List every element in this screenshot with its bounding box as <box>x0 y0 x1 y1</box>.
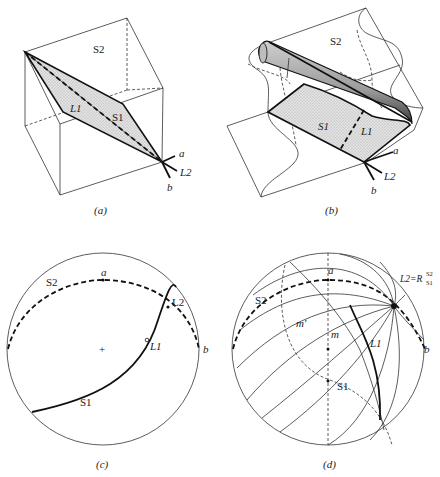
caption-d: (d) <box>323 458 336 471</box>
svg-text:S2: S2 <box>426 270 433 277</box>
label-l2: L2 <box>172 296 184 308</box>
hinge-end <box>259 43 267 63</box>
label-b: b <box>167 181 173 193</box>
label-b: b <box>203 343 209 355</box>
label-s2: S2 <box>330 35 342 47</box>
point-s1-intersection <box>327 380 330 383</box>
caption-c: (c) <box>96 458 109 471</box>
label-rotation-axis: L2=R S2 S1 <box>399 270 433 286</box>
label-a: a <box>179 147 185 159</box>
point-a <box>327 279 330 282</box>
label-s1: S1 <box>318 120 329 132</box>
label-l2: L2 <box>383 170 396 182</box>
label-a: a <box>393 144 399 156</box>
panel-d: a S2 m′ m L1 S1 b L2=R S2 S1 (d) <box>232 253 433 471</box>
panel-c: + a S2 L2 L1 b S1 (c) <box>7 253 209 471</box>
label-s1: S1 <box>337 380 349 392</box>
label-s1: S1 <box>112 111 124 123</box>
label-b: b <box>371 184 377 196</box>
svg-text:S1: S1 <box>426 279 433 286</box>
label-s2: S2 <box>255 294 267 306</box>
label-a: a <box>328 264 334 276</box>
label-l2: L2 <box>179 166 192 178</box>
panel-a: S2 L1 S1 a L2 b (a) <box>25 18 192 217</box>
center-mark: + <box>99 343 105 355</box>
point-a <box>101 278 104 281</box>
label-l1: L1 <box>149 340 162 352</box>
point-l2-rotation-axis <box>391 303 397 309</box>
point-l2 <box>166 305 169 308</box>
label-l1: L1 <box>360 125 373 137</box>
label-s2: S2 <box>93 43 105 55</box>
label-b: b <box>424 343 430 355</box>
label-m-prime: m′ <box>296 317 307 329</box>
point-m <box>327 348 330 351</box>
axis-a-line <box>162 156 175 162</box>
label-s2: S2 <box>46 276 58 288</box>
great-circle-s2 <box>8 280 199 349</box>
label-l1: L1 <box>69 102 82 114</box>
caption-a: (a) <box>94 204 107 217</box>
panel-b: S2 S1 L1 a L2 b (b) <box>227 8 423 217</box>
label-a: a <box>101 266 107 278</box>
label-l1: L1 <box>369 337 382 349</box>
figure-canvas: S2 L1 S1 a L2 b (a) <box>0 0 440 477</box>
label-s1: S1 <box>80 396 92 408</box>
label-m: m <box>331 328 339 340</box>
point-l1 <box>145 338 149 342</box>
caption-b: (b) <box>325 204 338 217</box>
svg-text:L2=R: L2=R <box>399 274 422 284</box>
